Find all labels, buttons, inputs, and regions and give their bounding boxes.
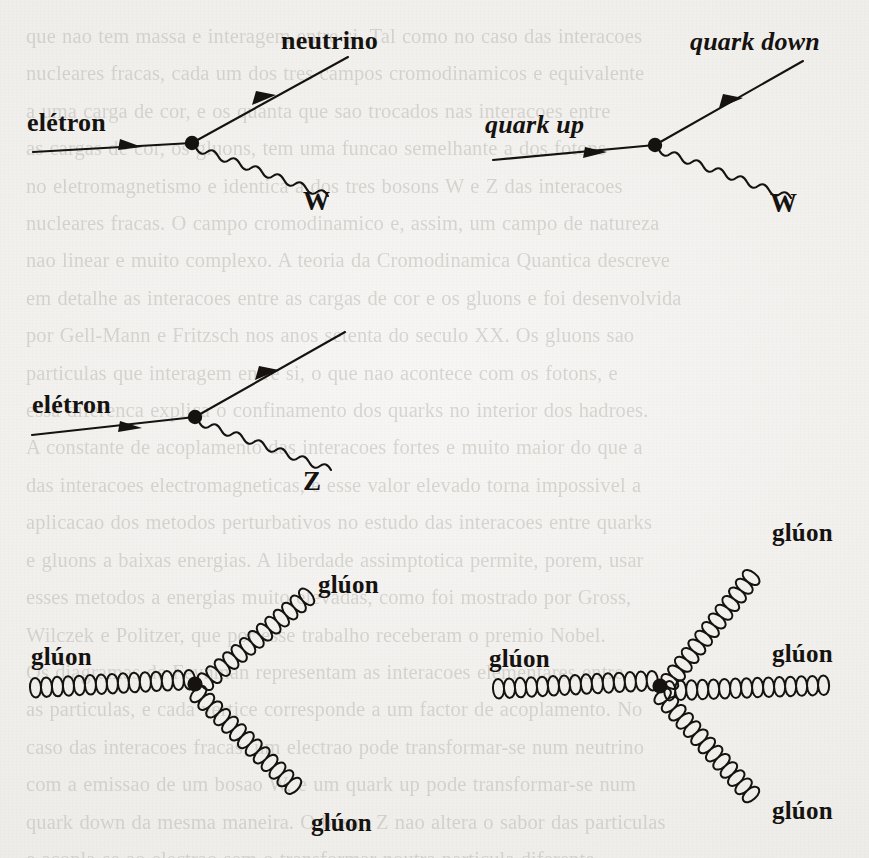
outgoing-neutrino-line <box>192 57 348 143</box>
label-outgoing-neutrino: neutrino <box>281 26 378 56</box>
label-incoming-electron: elétron <box>32 390 111 420</box>
label-w-boson: W <box>303 186 330 217</box>
interaction-vertex-dot <box>188 410 202 424</box>
z-boson-wavy-line <box>199 422 331 470</box>
label-outgoing-quark-down: quark down <box>690 27 820 57</box>
interaction-vertex-dot <box>648 138 662 152</box>
electron-out-arrowhead <box>255 366 279 380</box>
interaction-vertex-dot <box>185 136 199 150</box>
label-outgoing-gluon-upper: glúon <box>772 519 833 547</box>
label-outgoing-gluon-lower: glúon <box>772 797 833 825</box>
interaction-vertex-dot <box>652 678 667 693</box>
label-outgoing-gluon-upper: glúon <box>318 571 379 599</box>
interaction-vertex-dot <box>187 676 202 691</box>
incoming-electron-line <box>33 143 192 152</box>
label-z-boson: Z <box>303 466 321 497</box>
label-incoming-gluon: glúon <box>489 645 550 673</box>
label-incoming-electron: elétron <box>27 108 106 138</box>
label-w-boson: W <box>770 188 797 219</box>
label-outgoing-gluon-lower: glúon <box>311 809 372 837</box>
outgoing-gluon-middle-coil <box>664 675 830 700</box>
electron-arrowhead <box>118 139 142 150</box>
label-outgoing-gluon-middle: glúon <box>772 640 833 668</box>
scanned-page: que nao tem massa e interagem entre si. … <box>0 0 869 858</box>
outgoing-electron-line <box>195 332 345 417</box>
incoming-gluon-coil <box>492 671 658 699</box>
outgoing-gluon-upper-coil <box>195 586 317 693</box>
incoming-gluon-coil <box>29 670 195 698</box>
label-incoming-gluon: glúon <box>31 643 92 671</box>
outgoing-gluon-lower-coil <box>188 683 304 796</box>
outgoing-gluon-lower-coil <box>652 686 762 805</box>
outgoing-gluon-upper-coil <box>659 567 762 692</box>
diagram-three-gluon-vertex <box>0 510 440 858</box>
incoming-quark-up-line <box>493 145 655 160</box>
quark-up-arrowhead <box>583 147 607 158</box>
label-incoming-quark-up: quark up <box>485 110 584 140</box>
